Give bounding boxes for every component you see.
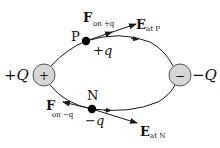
- positive-charge-symbol: +: [39, 69, 49, 83]
- field-at-p-label: E: [136, 17, 146, 32]
- field-at-n-sub: at N: [150, 132, 165, 140]
- field-at-p-sub: at P: [146, 25, 160, 33]
- negative-charge-symbol: −: [175, 69, 185, 83]
- positive-charge-label: +Q: [4, 66, 29, 84]
- point-n-label: N: [87, 88, 98, 103]
- field-line-lower: [50, 85, 175, 110]
- negative-charge-label: −Q: [192, 66, 217, 84]
- force-on-negative-q-sub: on −q: [52, 111, 74, 119]
- point-n-dot: [88, 105, 96, 113]
- force-on-positive-q-sub: on +q: [93, 20, 115, 28]
- field-at-n-label: E: [140, 124, 150, 139]
- point-p-label: P: [71, 29, 80, 44]
- electric-field-diagram: + +Q − −Q P +q F on +q E at P N −q F on …: [0, 0, 220, 148]
- force-on-positive-q-label: F: [83, 10, 93, 25]
- point-p-dot: [82, 37, 90, 45]
- point-p-charge-label: +q: [93, 43, 112, 58]
- point-n-charge-label: −q: [85, 113, 104, 128]
- force-on-negative-q-arrow: [63, 102, 92, 109]
- field-line-upper-arrow-icon: [131, 39, 136, 40]
